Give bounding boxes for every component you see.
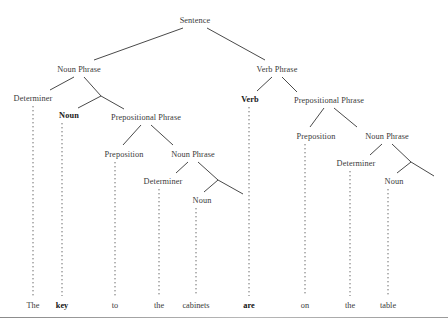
tree-branch-noun-phrase-3-to-branch-3 [392,144,411,162]
sentence-word-w3: to [112,301,118,310]
tree-node-np1: Noun Phrase [57,65,101,74]
bottom-divider-rule [0,317,448,318]
tree-branch-noun-phrase-1-to-determiner-1 [50,77,74,90]
tree-branch-noun-phrase-3-to-determiner-3 [370,144,382,155]
sentence-word-w2: key [56,301,68,310]
tree-branch-prep-phrase-1-to-noun-phrase-2 [151,125,173,145]
tree-node-pp2: Prepositional Phrase [294,96,364,105]
tree-node-noun2: Noun [193,196,212,205]
syntax-tree-diagram: SentenceNoun PhraseVerb PhraseDeterminer… [0,0,448,332]
tree-node-s: Sentence [180,16,211,25]
sentence-word-w5: cabinets [182,301,209,310]
tree-branch-prep-phrase-1-to-preposition-1 [123,125,141,145]
tree-branch-prep-phrase-2-to-noun-phrase-3 [334,108,357,127]
tree-branch-branch-2-to-dangling-2 [218,180,243,194]
tree-edges-layer [0,0,448,332]
tree-branch-noun-phrase-2-to-branch-2 [198,162,218,180]
tree-node-det3: Determiner [337,159,376,168]
tree-branch-sentence-to-verb-phrase [207,28,265,60]
tree-node-verb: Verb [241,95,259,104]
tree-branch-branch-2-to-noun-2 [204,180,218,192]
tree-node-np3: Noun Phrase [365,132,409,141]
sentence-word-w9: table [380,301,396,310]
tree-node-prep1: Preposition [105,150,144,159]
sentence-word-w4: the [154,301,164,310]
sentence-word-w6: are [243,301,254,310]
tree-branch-prep-phrase-2-to-preposition-2 [310,108,324,127]
tree-branch-noun-phrase-2-to-determiner-2 [176,162,188,173]
sentence-word-w7: on [301,301,309,310]
tree-branch-branch-1-to-noun-1 [78,96,101,108]
tree-branch-branch-3-to-noun-3 [397,162,411,173]
tree-branch-branch-1-to-prepositional-phrase-1 [101,96,124,109]
tree-node-pp1: Prepositional Phrase [111,113,181,122]
tree-branch-verb-phrase-to-prepositional-phrase-2 [282,77,297,92]
sentence-word-w8: the [345,301,355,310]
tree-node-noun3: Noun [385,177,404,186]
tree-node-np2: Noun Phrase [171,150,215,159]
tree-node-det1: Determiner [14,94,53,103]
tree-branch-branch-3-to-dangling-3 [411,162,434,176]
tree-node-vp: Verb Phrase [257,65,298,74]
tree-branch-verb-phrase-to-verb [257,77,272,91]
tree-node-prep2: Preposition [297,132,336,141]
tree-node-noun1: Noun [59,111,79,120]
sentence-word-w1: The [27,301,40,310]
tree-branch-noun-phrase-1-to-branch-1 [84,77,101,96]
solid-edge-group [50,28,434,194]
tree-branch-sentence-to-noun-phrase-1 [94,28,183,60]
tree-node-det2: Determiner [144,177,183,186]
